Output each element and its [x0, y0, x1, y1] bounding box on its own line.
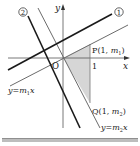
- point-p-label: P(1, m1): [92, 46, 125, 56]
- label-y-m1x: y=m1x: [7, 86, 35, 96]
- label-line-2: 2: [19, 8, 27, 17]
- svg-text:1: 1: [117, 9, 121, 17]
- svg-text:2: 2: [21, 9, 25, 17]
- y-axis-arrow-icon: [61, 4, 65, 10]
- x-axis-arrow-icon: [124, 56, 130, 60]
- bottom-divider: [2, 138, 138, 142]
- point-q-label: Q(1, m2): [92, 107, 126, 117]
- label-line-1: 1: [115, 8, 123, 17]
- tick-1-label: 1: [92, 62, 97, 71]
- origin-label: O: [52, 61, 59, 71]
- shaded-triangle-opq: [63, 44, 90, 103]
- y-axis-label: y: [54, 3, 61, 13]
- line-y-m1x: [10, 25, 128, 86]
- x-axis-label: x: [123, 61, 128, 71]
- coordinate-diagram: 1 2 y x O 1 P(1, m1) Q(1, m2) y=m1x y=m2…: [0, 0, 140, 146]
- label-y-m2x: y=m2x: [100, 123, 128, 133]
